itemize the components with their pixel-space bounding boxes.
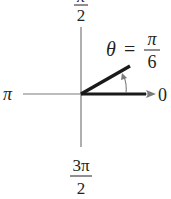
arc-arrow-icon (121, 73, 127, 80)
svg-text:π: π (147, 29, 157, 49)
angle-label: θ = π 6 (106, 29, 160, 72)
svg-text:=: = (124, 38, 135, 60)
label-pi: π (3, 84, 13, 104)
label-3pi-over-2: 3π 2 (70, 156, 92, 198)
svg-text:3π: 3π (72, 156, 90, 175)
angle-arc (124, 77, 126, 93)
svg-text:6: 6 (148, 52, 157, 72)
label-zero: 0 (158, 85, 167, 105)
label-pi-over-2: π 2 (74, 0, 88, 25)
polar-diagram: π 2 π 0 3π 2 θ = π 6 (0, 0, 171, 199)
svg-text:θ: θ (106, 38, 116, 60)
svg-text:2: 2 (77, 179, 86, 198)
terminal-ray (81, 66, 130, 94)
svg-text:2: 2 (77, 6, 86, 25)
